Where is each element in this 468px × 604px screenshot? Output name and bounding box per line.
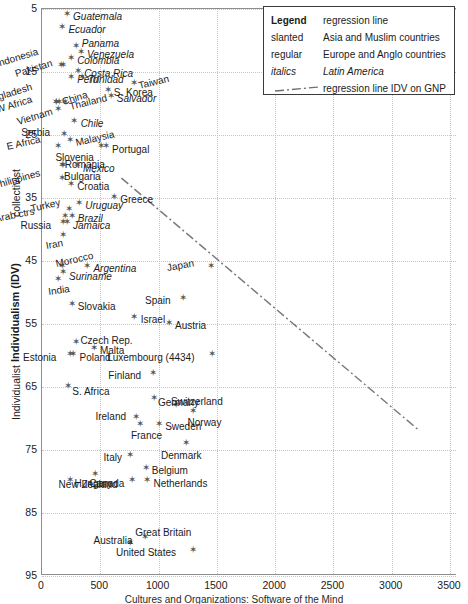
y-gridline (42, 324, 456, 325)
point-marker-icon: ✶ (73, 160, 81, 170)
point-marker-icon: ✶ (126, 450, 134, 460)
point-marker-icon: ✶ (69, 349, 77, 359)
point-marker-icon: ✶ (207, 261, 215, 271)
y-axis-label-individualist: Individualist (10, 365, 22, 420)
point-marker-icon: ✶ (90, 343, 98, 353)
point-label: France (131, 431, 162, 442)
x-tick-label: 3000 (379, 579, 402, 591)
legend-row-regression: regression line IDV on GNP (271, 80, 448, 97)
legend-title-value: regression line (323, 15, 388, 26)
x-tick-label: 2000 (262, 579, 285, 591)
point-label: E Africa (5, 134, 41, 152)
legend-row-slanted: slanted Asia and Muslim countries (271, 29, 448, 46)
x-tick-label: 3500 (437, 579, 460, 591)
y-tick-label: 65 (25, 380, 37, 392)
y-tick-label: 5 (31, 2, 37, 14)
point-marker-icon: ✶ (63, 217, 71, 227)
point-marker-icon: ✶ (75, 198, 83, 208)
point-label: New Zealand (59, 480, 118, 491)
point-label: Belgium (152, 466, 188, 477)
legend-row-italics: italics Latin America (271, 63, 448, 80)
point-label: Great Britain (135, 528, 191, 539)
point-marker-icon: ✶ (58, 22, 66, 32)
x-tick-label: 1000 (146, 579, 169, 591)
y-tick-label: 95 (25, 569, 37, 581)
figure-scatter-idv-gnp: 0500100015002000250030003500515253545556… (0, 0, 468, 604)
point-label: Colombia (77, 56, 119, 67)
point-marker-icon: ✶ (63, 9, 71, 19)
point-marker-icon: ✶ (59, 60, 67, 70)
point-label: Ecuador (68, 25, 105, 36)
point-label: Austria (175, 321, 206, 332)
point-marker-icon: ✶ (179, 293, 187, 303)
legend-key-regular: regular (271, 49, 323, 60)
point-marker-icon: ✶ (149, 368, 157, 378)
figure-caption: Cultures and Organizations: Software of … (0, 594, 468, 604)
point-marker-icon: ✶ (83, 261, 91, 271)
point-marker-icon: ✶ (72, 337, 80, 347)
point-label: Salvador (117, 94, 156, 105)
y-tick-label: 45 (25, 254, 37, 266)
x-tick-label: 0 (38, 579, 44, 591)
point-marker-icon: ✶ (165, 318, 173, 328)
point-label: Greece (120, 195, 153, 206)
point-marker-icon: ✶ (182, 438, 190, 448)
legend-row-regular: regular Europe and Anglo countries (271, 46, 448, 63)
point-marker-icon: ✶ (142, 463, 150, 473)
point-label: United States (116, 548, 176, 559)
legend-value-slanted: Asia and Muslim countries (323, 32, 440, 43)
point-label: Estonia (23, 353, 56, 364)
point-marker-icon: ✶ (68, 299, 76, 309)
point-label: Australia (94, 536, 133, 547)
point-marker-icon: ✶ (130, 312, 138, 322)
point-label: Ireland (95, 412, 126, 423)
legend-title: Legend (271, 15, 323, 26)
y-gridline (42, 513, 456, 514)
point-label: Denmark (161, 451, 202, 462)
point-label: Jamaica (73, 221, 110, 232)
point-marker-icon: ✶ (59, 160, 67, 170)
point-marker-icon: ✶ (91, 469, 99, 479)
point-marker-icon: ✶ (61, 97, 69, 107)
x-gridline (159, 9, 160, 574)
point-marker-icon: ✶ (66, 135, 74, 145)
point-marker-icon: ✶ (70, 116, 78, 126)
point-marker-icon: ✶ (143, 475, 151, 485)
point-label: Panama (82, 39, 119, 50)
legend-key-italics: italics (271, 66, 323, 77)
point-marker-icon: ✶ (136, 419, 144, 429)
point-label: Netherlands (153, 479, 207, 490)
point-label: Spain (145, 296, 171, 307)
point-marker-icon: ✶ (189, 406, 197, 416)
legend-key-slanted: slanted (271, 32, 303, 43)
x-tick-label: 2500 (321, 579, 344, 591)
point-marker-icon: ✶ (67, 72, 75, 82)
x-tick-label: 500 (91, 579, 109, 591)
y-tick-label: 75 (25, 443, 37, 455)
point-label: Russia (21, 221, 52, 232)
point-marker-icon: ✶ (64, 381, 72, 391)
y-tick-label: 85 (25, 506, 37, 518)
legend-value-regression: regression line IDV on GNP (323, 83, 446, 94)
point-label: Suriname (69, 272, 112, 283)
point-label: Finland (108, 371, 141, 382)
legend-dashdot-swatch (271, 84, 323, 94)
point-marker-icon: ✶ (150, 393, 158, 403)
point-marker-icon: ✶ (54, 274, 62, 284)
y-gridline (42, 261, 456, 262)
legend-box: Legend regression line slanted Asia and … (263, 6, 455, 95)
point-marker-icon: ✶ (128, 475, 136, 485)
point-marker-icon: ✶ (208, 349, 216, 359)
x-gridline (217, 9, 218, 574)
point-marker-icon: ✶ (67, 179, 75, 189)
point-label: Croatia (77, 182, 109, 193)
y-gridline (42, 450, 456, 451)
point-marker-icon: ✶ (54, 141, 62, 151)
y-axis-title: Individualism (IDV) (9, 263, 21, 362)
point-marker-icon: ✶ (155, 419, 163, 429)
point-label: Sweden (165, 422, 201, 433)
point-marker-icon: ✶ (58, 173, 66, 183)
point-label: Israel (141, 315, 165, 326)
point-label: Italy (104, 453, 122, 464)
y-gridline (42, 576, 456, 577)
